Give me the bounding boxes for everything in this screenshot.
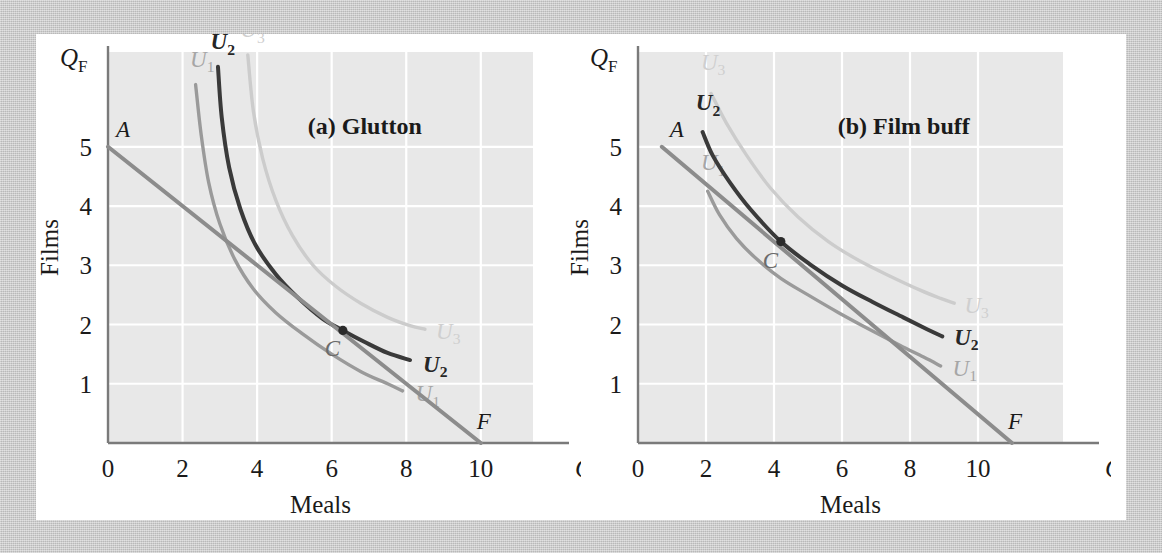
chart-panel-film-buff: U3U3U1U1U2U2AFC024681012345QMQFMealsFilm… — [566, 34, 1111, 520]
curve-label: F — [476, 409, 492, 434]
x-tick-label: 4 — [768, 455, 781, 482]
y-tick-label: 3 — [80, 252, 93, 279]
y-axis-title: Films — [36, 219, 63, 276]
x-tick-label: 6 — [836, 455, 849, 482]
x-tick-label: 0 — [102, 455, 115, 482]
y-tick-label: 1 — [80, 371, 93, 398]
svg-text:F: F — [1007, 409, 1023, 434]
y-tick-label: 2 — [80, 312, 93, 339]
x-tick-label: 4 — [251, 455, 264, 482]
svg-text:QF: QF — [60, 44, 88, 76]
curve-label: C — [763, 248, 779, 273]
y-tick-label: 5 — [610, 134, 623, 161]
optimum-point-marker — [338, 326, 347, 335]
panel-title: (a) Glutton — [308, 113, 422, 139]
curve-label: U3 — [240, 34, 265, 46]
panel-title: (b) Film buff — [838, 113, 971, 139]
x-axis-title: Meals — [290, 491, 351, 518]
curve-label: F — [1007, 409, 1023, 434]
curve-label: C — [325, 336, 341, 361]
y-tick-label: 3 — [610, 252, 623, 279]
y-axis-title: Films — [566, 219, 593, 276]
x-tick-label: 8 — [400, 455, 413, 482]
chart-panel-glutton: U3U3U1U1U2U2AFC024681012345QMQFMealsFilm… — [36, 34, 581, 520]
x-tick-label: 0 — [632, 455, 645, 482]
curve-label: QF — [60, 44, 88, 76]
x-tick-label: 6 — [325, 455, 338, 482]
figure-content-panel: U3U3U1U1U2U2AFC024681012345QMQFMealsFilm… — [36, 34, 1126, 520]
x-tick-label: 8 — [904, 455, 917, 482]
svg-text:U2: U2 — [211, 34, 236, 58]
y-tick-label: 5 — [80, 134, 93, 161]
y-tick-label: 1 — [610, 371, 623, 398]
svg-text:A: A — [668, 117, 685, 142]
curve-label: QM — [1105, 455, 1111, 487]
svg-text:A: A — [114, 117, 131, 142]
x-tick-label: 2 — [700, 455, 713, 482]
svg-text:QF: QF — [590, 44, 618, 76]
svg-text:U3: U3 — [240, 34, 265, 46]
curve-label: A — [114, 117, 131, 142]
x-tick-label: 10 — [966, 455, 991, 482]
svg-text:QM: QM — [1105, 455, 1111, 487]
svg-text:C: C — [325, 336, 341, 361]
x-tick-label: 2 — [176, 455, 189, 482]
optimum-point-marker — [776, 237, 785, 246]
x-axis-title: Meals — [820, 491, 881, 518]
curve-label: U2 — [211, 34, 236, 58]
svg-text:C: C — [763, 248, 779, 273]
y-tick-label: 2 — [610, 312, 623, 339]
svg-text:F: F — [476, 409, 492, 434]
y-tick-label: 4 — [610, 193, 623, 220]
y-tick-label: 4 — [80, 193, 93, 220]
curve-label: QF — [590, 44, 618, 76]
figure-root: U3U3U1U1U2U2AFC024681012345QMQFMealsFilm… — [0, 0, 1162, 553]
curve-label: A — [668, 117, 685, 142]
x-tick-label: 10 — [468, 455, 493, 482]
